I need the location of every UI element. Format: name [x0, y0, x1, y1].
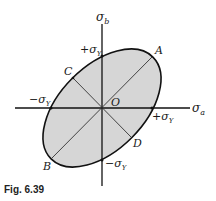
origin-label: O	[111, 96, 120, 109]
point-C-label: C	[64, 65, 73, 78]
left-intercept-label: −σY	[29, 93, 52, 108]
figure-caption: Fig. 6.39	[4, 184, 44, 195]
point-D-label: D	[132, 137, 142, 150]
yield-ellipse-diagram: σb σa +σY −σY +σY −σY A B C D O	[0, 0, 216, 201]
bottom-intercept-label: −σY	[105, 157, 128, 172]
sigma-a-label: σa	[192, 101, 205, 117]
intercept-bottom	[101, 159, 104, 162]
point-B-label: B	[42, 160, 51, 173]
top-intercept-label: +σY	[80, 43, 103, 58]
right-intercept-label: +σY	[152, 110, 175, 125]
point-A-label: A	[154, 44, 163, 57]
sigma-b-label: σb	[96, 10, 109, 26]
